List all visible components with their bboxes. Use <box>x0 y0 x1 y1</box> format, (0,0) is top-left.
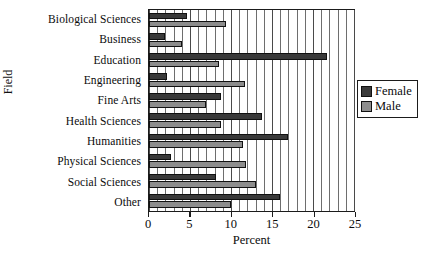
bar-female <box>149 174 216 181</box>
x-axis-tick-label: 10 <box>225 217 238 232</box>
y-axis-tick-label: Business <box>14 29 145 49</box>
y-axis-tick-label: Engineering <box>14 70 145 90</box>
legend-item: Female <box>361 84 412 99</box>
bar-male <box>149 201 231 208</box>
bar-chart: Field Biological SciencesBusinessEducati… <box>0 0 429 254</box>
bar-male <box>149 121 221 128</box>
y-axis-tick-label: Education <box>14 50 145 70</box>
y-axis-tick-label: Social Sciences <box>14 171 145 191</box>
y-axis-tick-label: Humanities <box>14 131 145 151</box>
legend-label: Female <box>375 84 412 99</box>
bar-male <box>149 61 219 68</box>
bar-group <box>149 151 354 171</box>
bar-group <box>149 30 354 50</box>
bar-male <box>149 161 246 168</box>
x-axis-tick-labels: 0510152025 <box>148 217 355 233</box>
y-axis-tick-labels: Biological SciencesBusinessEducationEngi… <box>14 9 145 212</box>
bar-male <box>149 141 243 148</box>
bar-group <box>149 10 354 30</box>
bar-female <box>149 53 327 60</box>
bar-male <box>149 101 206 108</box>
bar-group <box>149 70 354 90</box>
bar-female <box>149 13 187 20</box>
bar-female <box>149 194 280 201</box>
legend-swatch-icon <box>361 86 372 97</box>
y-axis-tick-label: Health Sciences <box>14 110 145 130</box>
x-axis-tick-label: 25 <box>349 217 362 232</box>
x-axis-tick-label: 0 <box>145 217 151 232</box>
bar-female <box>149 134 288 141</box>
y-axis-tick-label: Fine Arts <box>14 90 145 110</box>
legend: FemaleMale <box>357 80 418 118</box>
x-axis-tick-label: 20 <box>307 217 320 232</box>
bar-female <box>149 33 165 40</box>
y-axis-tick-label: Physical Sciences <box>14 151 145 171</box>
bar-male <box>149 81 245 88</box>
plot-area <box>148 9 355 212</box>
legend-label: Male <box>375 99 401 114</box>
bar-female <box>149 154 171 161</box>
x-axis-tick-label: 5 <box>186 217 192 232</box>
bar-female <box>149 113 262 120</box>
bar-group <box>149 110 354 130</box>
bar-male <box>149 21 226 28</box>
y-axis-tick-label: Other <box>14 192 145 212</box>
bar-female <box>149 93 221 100</box>
y-axis-tick-label: Biological Sciences <box>14 9 145 29</box>
x-axis-title: Percent <box>148 233 355 248</box>
bar-groups <box>149 10 354 211</box>
bar-group <box>149 171 354 191</box>
bar-male <box>149 181 256 188</box>
legend-swatch-icon <box>361 101 372 112</box>
x-axis-tick-label: 15 <box>266 217 279 232</box>
bar-group <box>149 50 354 70</box>
bar-group <box>149 131 354 151</box>
gridline <box>354 10 355 211</box>
legend-item: Male <box>361 99 412 114</box>
bar-group <box>149 90 354 110</box>
bar-male <box>149 41 182 48</box>
bar-group <box>149 191 354 211</box>
bar-female <box>149 73 167 80</box>
